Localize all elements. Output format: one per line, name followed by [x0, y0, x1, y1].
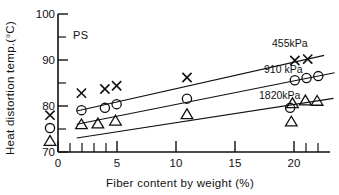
- data-point-zero: [44, 136, 56, 146]
- x-tick-label-0: 0: [55, 157, 61, 169]
- chart-figure: 100 90 80 70 0 5 10 15 20 Fi: [0, 0, 339, 195]
- series-label-455kpa: 455kPa: [272, 37, 308, 49]
- series-label-910kpa: 910 kPa: [264, 63, 303, 75]
- y-tick-label-80: 80: [42, 100, 55, 112]
- x-axis-title: Fiber content by weight (%): [106, 177, 254, 189]
- x-tick-label-15: 15: [229, 157, 242, 169]
- x-axis-tick-labels: 0 5 10 15 20: [55, 157, 301, 169]
- x-tick-label-5: 5: [114, 157, 120, 169]
- heat-distortion-temperature-chart: 100 90 80 70 0 5 10 15 20 Fi: [0, 0, 339, 195]
- series-labels: 455kPa 910 kPa 1820kPa: [259, 37, 308, 101]
- x-tick-label-10: 10: [170, 157, 183, 169]
- y-axis-title: Heat distortion temp.(°C): [4, 21, 16, 155]
- x-axis-ticks: [58, 141, 318, 152]
- y-tick-label-90: 90: [42, 54, 55, 66]
- y-axis-tick-labels: 100 90 80 70: [36, 8, 55, 158]
- series-1820kpa: [76, 95, 334, 138]
- series-label-1820kpa: 1820kPa: [259, 89, 301, 101]
- axes-group: [58, 14, 330, 152]
- data-point: [286, 116, 298, 126]
- trend-line-2: [77, 98, 334, 138]
- y-tick-label-100: 100: [36, 8, 55, 20]
- material-annotation-ps: PS: [73, 29, 89, 41]
- data-point-zero: [45, 123, 54, 132]
- x-tick-label-20: 20: [288, 157, 301, 169]
- origin-markers: [44, 111, 56, 146]
- y-tick-label-70: 70: [42, 146, 55, 158]
- y-axis-ticks: [58, 14, 68, 152]
- data-point: [112, 100, 121, 109]
- data-point: [181, 109, 193, 119]
